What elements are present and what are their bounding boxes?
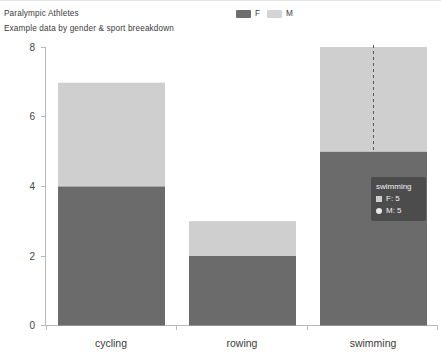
bar-segment-cycling-f[interactable] [58, 187, 165, 326]
x-tick-label-cycling: cycling [95, 337, 127, 349]
bar-segment-rowing-f[interactable] [189, 256, 296, 326]
y-tick-label-8: 8 [29, 42, 35, 53]
chart-root: Paralympic Athletes Example data by gend… [0, 0, 441, 357]
x-axis-ticks [47, 326, 438, 331]
tooltip-value-f: F: 5 [386, 193, 400, 204]
bar-segment-cycling-m[interactable] [58, 83, 165, 187]
bar-group-cycling[interactable] [58, 83, 165, 326]
tooltip-row-m: M: 5 [376, 205, 421, 216]
x-tick-label-swimming: swimming [350, 337, 397, 349]
square-marker-icon [376, 196, 382, 202]
plot-area[interactable]: 0 2 4 6 8 [0, 1, 441, 357]
y-tick-label-4: 4 [29, 181, 35, 192]
x-tick-label-rowing: rowing [227, 337, 258, 349]
y-tick-label-0: 0 [29, 320, 35, 331]
y-tick-label-2: 2 [29, 251, 35, 262]
tooltip-row-f: F: 5 [376, 193, 421, 204]
tooltip-title: swimming [376, 181, 421, 192]
y-axis-ticks: 0 2 4 6 8 [29, 42, 45, 332]
tooltip-value-m: M: 5 [386, 205, 402, 216]
chart-tooltip: swimming F: 5 M: 5 [371, 177, 426, 221]
dot-marker-icon [376, 208, 382, 214]
y-tick-label-6: 6 [29, 111, 35, 122]
bar-segment-rowing-m[interactable] [189, 221, 296, 256]
bar-group-rowing[interactable] [189, 221, 296, 325]
